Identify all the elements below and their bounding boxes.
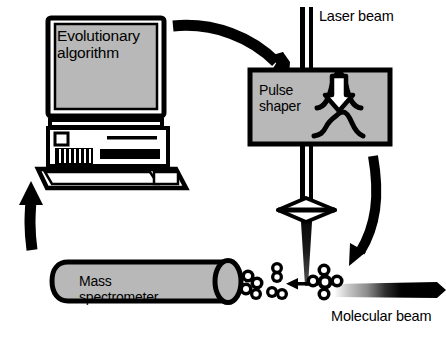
molecular-beam [334, 282, 446, 298]
screen-label: Evolutionary algorithm [57, 27, 140, 62]
case-top-slot [107, 136, 157, 140]
diagram-canvas: Evolutionary algorithm Pulse shaper Mass… [0, 0, 446, 339]
fragment-pair-lower [266, 286, 288, 300]
mass-spectrometer-label: Mass spectrometer [79, 274, 158, 305]
keypad-block[interactable] [154, 172, 178, 184]
fragment-cluster [240, 270, 264, 301]
pulse-shaper-label: Pulse shaper [259, 83, 301, 114]
laser-beam-label: Laser beam [319, 8, 394, 24]
fragment-pair-upper [271, 262, 283, 283]
laser-bar-left-lower [300, 143, 305, 206]
arrow-shaper-to-interaction [349, 156, 376, 266]
laser-bar-right-lower [309, 143, 313, 206]
drive-slot[interactable] [100, 149, 160, 159]
monitor-stand [50, 120, 162, 127]
vent-grille [55, 148, 93, 164]
arrow-spectrometer-to-computer [19, 181, 43, 250]
focusing-lens [278, 198, 335, 222]
spectrometer-aperture [215, 261, 241, 303]
laser-bar-left [300, 7, 305, 73]
fragmentation-region [240, 262, 344, 301]
keyboard[interactable] [38, 169, 186, 188]
laser-bar-right [309, 7, 313, 73]
molecular-beam-label: Molecular beam [331, 308, 431, 324]
laser-beam-top [300, 7, 313, 73]
power-button[interactable] [55, 133, 68, 145]
